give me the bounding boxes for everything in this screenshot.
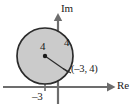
- real-axis-label: Re: [117, 80, 129, 91]
- radius-length-label: 4: [40, 41, 45, 52]
- imaginary-axis-label: Im: [61, 3, 73, 14]
- real-tick-label-neg3: –3: [32, 91, 43, 102]
- complex-plane-diagram: Im Re 4 4 –3 (–3, 4): [0, 0, 133, 107]
- center-coordinate-label: (–3, 4): [71, 64, 98, 75]
- imaginary-tick-label-4: 4: [64, 37, 69, 48]
- diagram-canvas: [0, 0, 133, 107]
- arrow-right-icon: [107, 83, 116, 92]
- center-point-marker: [43, 54, 47, 58]
- arrow-up-icon: [54, 13, 62, 21]
